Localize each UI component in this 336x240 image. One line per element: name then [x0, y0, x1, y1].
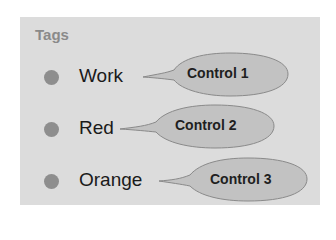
callout-label-1: Control 1: [187, 65, 248, 81]
tag-item-orange[interactable]: Orange: [0, 167, 336, 197]
tag-label: Orange: [79, 169, 142, 191]
tag-item-work[interactable]: Work: [0, 62, 336, 92]
tags-section-title: Tags: [35, 26, 69, 43]
callout-label-2: Control 2: [175, 117, 236, 133]
tag-item-red[interactable]: Red: [0, 114, 336, 144]
tag-color-dot-icon: [44, 174, 59, 189]
tag-label: Work: [79, 65, 123, 87]
tag-label: Red: [79, 117, 114, 139]
callout-label-3: Control 3: [210, 171, 271, 187]
tag-color-dot-icon: [44, 70, 59, 85]
tag-color-dot-icon: [44, 122, 59, 137]
